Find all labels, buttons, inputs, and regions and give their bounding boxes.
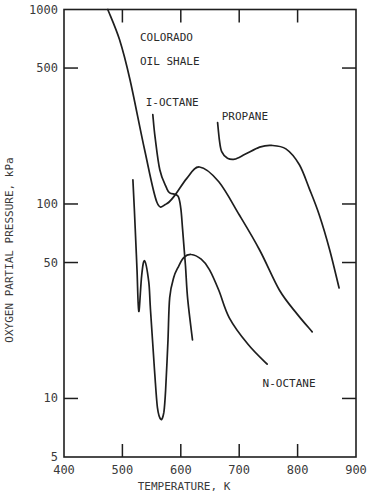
y-tick-label: 100 [36, 197, 58, 211]
x-tick-label: 400 [53, 463, 75, 477]
curve-n-octane [133, 180, 267, 420]
curve-label: OIL SHALE [140, 55, 200, 68]
curve-colorado-oil-shale [108, 10, 312, 332]
curve-i-octane [153, 115, 193, 340]
curve-label: N-OCTANE [263, 377, 316, 390]
axis-ticks [64, 10, 356, 458]
x-tick-label: 500 [112, 463, 134, 477]
y-tick-label: 10 [44, 391, 58, 405]
oxygen-pressure-chart: 400500600700800900510501005001000 COLORA… [0, 0, 368, 500]
curve-label: PROPANE [222, 110, 268, 123]
curve-labels: COLORADOOIL SHALEI-OCTANEPROPANEN-OCTANE [140, 31, 316, 390]
x-tick-label: 700 [228, 463, 250, 477]
curve-propane [218, 123, 340, 288]
plot-frame [64, 10, 356, 458]
data-curves [108, 10, 339, 420]
x-tick-label: 800 [287, 463, 309, 477]
y-tick-label: 50 [44, 256, 58, 270]
y-tick-label: 500 [36, 61, 58, 75]
axis-tick-labels: 400500600700800900510501005001000 [29, 3, 367, 478]
y-axis-title: OXYGEN PARTIAL PRESSURE, kPa [3, 157, 16, 342]
y-tick-label: 1000 [29, 3, 58, 17]
x-tick-label: 900 [345, 463, 367, 477]
curve-label: COLORADO [140, 31, 193, 44]
curve-label: I-OCTANE [146, 96, 199, 109]
x-tick-label: 600 [170, 463, 192, 477]
y-tick-label: 5 [51, 450, 58, 464]
x-axis-title: TEMPERATURE, K [138, 480, 231, 493]
